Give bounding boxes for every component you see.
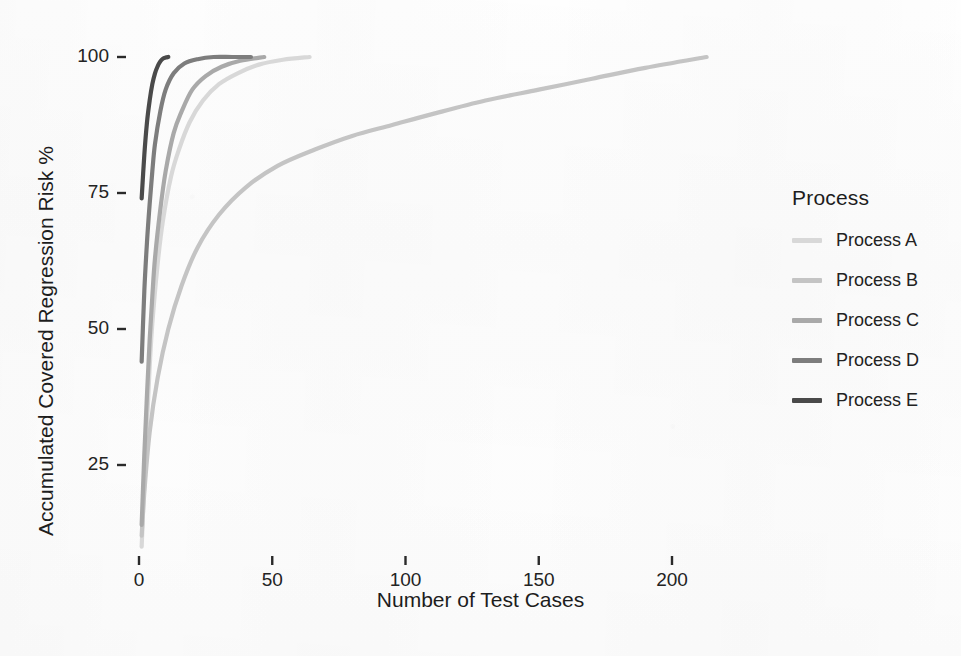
legend-swatch-icon — [792, 278, 822, 283]
series-line-process-b — [142, 57, 707, 536]
legend-item-label: Process B — [836, 270, 918, 291]
legend-item-label: Process D — [836, 350, 919, 371]
legend-item-process-a[interactable]: Process A — [792, 230, 957, 250]
chart-legend: Process Process AProcess BProcess CProce… — [792, 186, 957, 430]
legend-swatch-icon — [792, 318, 822, 323]
chart-figure: 255075100 050100150200 Number of Test Ca… — [0, 0, 961, 656]
data-series-group — [142, 57, 707, 547]
y-tick-label: 100 — [39, 45, 109, 67]
series-line-process-c — [142, 57, 265, 525]
axis-tick-marks — [117, 57, 672, 565]
legend-item-label: Process A — [836, 230, 917, 251]
series-line-process-d — [142, 57, 251, 362]
y-axis-title: Accumulated Covered Regression Risk % — [34, 146, 58, 536]
series-line-process-a — [142, 57, 310, 547]
legend-swatch-icon — [792, 238, 822, 243]
legend-items: Process AProcess BProcess CProcess DProc… — [792, 230, 957, 410]
legend-item-process-b[interactable]: Process B — [792, 270, 957, 290]
legend-swatch-icon — [792, 358, 822, 363]
legend-item-process-c[interactable]: Process C — [792, 310, 957, 330]
legend-item-label: Process E — [836, 390, 918, 411]
legend-title: Process — [792, 186, 957, 210]
x-axis-title: Number of Test Cases — [0, 588, 961, 612]
legend-item-process-d[interactable]: Process D — [792, 350, 957, 370]
legend-swatch-icon — [792, 398, 822, 403]
legend-item-process-e[interactable]: Process E — [792, 390, 957, 410]
legend-item-label: Process C — [836, 310, 919, 331]
